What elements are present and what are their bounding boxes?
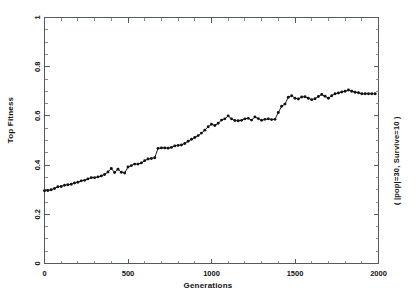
chart-canvas: 0500100015002000 00.20.40.60.81 bbox=[0, 0, 416, 302]
y-axis-title: Top Fitness bbox=[6, 97, 15, 144]
parameter-annotation: ( |pop|=30, Survive=10 ) bbox=[392, 116, 401, 205]
x-axis-title: Generations bbox=[0, 281, 416, 290]
chart-figure: 0500100015002000 00.20.40.60.81 Top Fitn… bbox=[0, 0, 416, 302]
svg-text:1: 1 bbox=[33, 15, 42, 19]
plot-frame bbox=[45, 18, 379, 264]
svg-text:500: 500 bbox=[122, 269, 135, 278]
x-axis-ticks: 0500100015002000 bbox=[42, 18, 386, 278]
svg-text:1000: 1000 bbox=[203, 269, 220, 278]
svg-text:2000: 2000 bbox=[370, 269, 387, 278]
y-axis-ticks: 00.20.40.60.81 bbox=[33, 15, 379, 265]
svg-text:0.2: 0.2 bbox=[33, 209, 42, 219]
svg-text:0.4: 0.4 bbox=[33, 159, 42, 170]
svg-text:0: 0 bbox=[42, 269, 46, 278]
svg-text:1500: 1500 bbox=[287, 269, 304, 278]
svg-text:0: 0 bbox=[33, 261, 42, 265]
data-series-top-fitness bbox=[43, 89, 377, 193]
svg-text:0.8: 0.8 bbox=[33, 61, 42, 71]
svg-text:0.6: 0.6 bbox=[33, 111, 42, 121]
